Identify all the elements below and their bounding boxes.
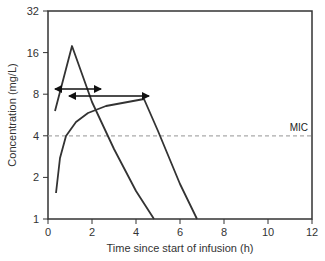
y-tick-label: 4 bbox=[33, 130, 39, 142]
y-tick-labels: 32 16 8 4 2 1 bbox=[27, 5, 39, 225]
x-tick-label: 10 bbox=[262, 226, 274, 238]
plot-area-frame bbox=[48, 11, 312, 219]
y-tick-label: 2 bbox=[33, 171, 39, 183]
x-tick-label: 4 bbox=[133, 226, 139, 238]
y-tick-label: 16 bbox=[27, 47, 39, 59]
x-tick-label: 12 bbox=[306, 226, 318, 238]
x-tick-label: 8 bbox=[221, 226, 227, 238]
concentration-time-chart: 32 16 8 4 2 1 0 2 4 6 8 10 12 Time since… bbox=[0, 0, 325, 261]
x-axis-title: Time since start of infusion (h) bbox=[107, 242, 254, 254]
y-tick-label: 8 bbox=[33, 88, 39, 100]
y-axis-title: Concentration (mg/L) bbox=[6, 63, 18, 166]
x-tick-label: 2 bbox=[89, 226, 95, 238]
series-prolonged-infusion bbox=[56, 99, 197, 219]
series-short-infusion bbox=[55, 46, 154, 219]
x-tick-label: 0 bbox=[45, 226, 51, 238]
y-tick-label: 1 bbox=[33, 213, 39, 225]
y-tick-label: 32 bbox=[27, 5, 39, 17]
x-tick-label: 6 bbox=[177, 226, 183, 238]
mic-label: MIC bbox=[290, 122, 308, 133]
x-tick-labels: 0 2 4 6 8 10 12 bbox=[45, 226, 318, 238]
